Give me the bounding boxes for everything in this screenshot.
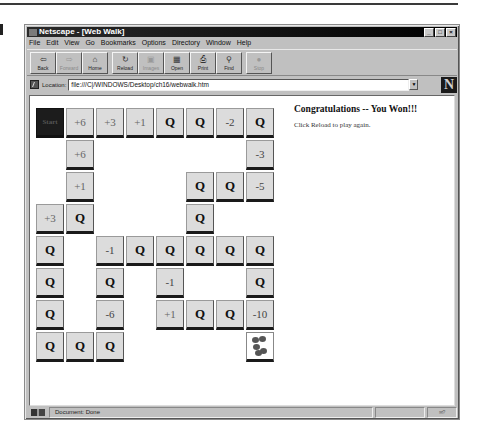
stop-label: Stop [254,65,264,71]
print-label: Print [198,65,208,71]
empty-cell [186,268,214,298]
menu-options[interactable]: Options [142,38,166,48]
number-tile[interactable]: -10 [246,300,274,330]
menu-window[interactable]: Window [206,38,231,48]
question-tile[interactable]: Q [156,236,184,266]
question-tile[interactable]: Q [96,268,124,298]
empty-cell [126,300,154,330]
maximize-button[interactable]: □ [435,28,445,37]
open-label: Open [171,65,183,71]
number-tile[interactable]: -1 [156,268,184,298]
empty-cell [186,332,214,362]
number-tile[interactable]: -5 [246,172,274,202]
bookmark-link-icon[interactable] [30,80,39,89]
paw-prints-icon [250,335,270,357]
empty-cell [186,140,214,170]
home-label: Home [88,65,101,71]
question-tile[interactable]: Q [186,108,214,138]
question-tile[interactable]: Q [36,236,64,266]
question-tile[interactable]: Q [186,300,214,330]
menu-directory[interactable]: Directory [172,38,200,48]
forward-label: Forward [60,65,78,71]
empty-cell [36,140,64,170]
empty-cell [66,236,94,266]
menu-go[interactable]: Go [85,38,94,48]
question-tile[interactable]: Q [246,268,274,298]
question-tile[interactable]: Q [156,108,184,138]
question-tile[interactable]: Q [246,236,274,266]
question-tile[interactable]: Q [186,204,214,234]
reload-icon: ↻ [120,56,130,64]
empty-cell [126,140,154,170]
empty-cell [96,172,124,202]
game-board: Start+6+3+1QQ-2Q+6-3+1QQ-5+3QQQ-1QQQQQQQ… [36,108,274,362]
question-tile[interactable]: Q [186,172,214,202]
menu-bookmarks[interactable]: Bookmarks [101,38,136,48]
location-bar: Location: file:///C|/WINDOWS/Desktop/ch1… [27,76,457,93]
number-tile[interactable]: +6 [66,140,94,170]
empty-cell [66,300,94,330]
find-button[interactable]: ⚲ Find [216,52,242,74]
number-tile[interactable]: +1 [156,300,184,330]
question-tile[interactable]: Q [96,332,124,362]
empty-cell [126,172,154,202]
empty-cell [66,268,94,298]
netscape-logo[interactable]: N [441,77,457,93]
number-tile[interactable]: +1 [126,108,154,138]
number-tile[interactable]: +1 [66,172,94,202]
status-text: Document: Done [49,407,373,418]
number-tile[interactable]: -1 [96,236,124,266]
question-tile[interactable]: Q [216,300,244,330]
menu-help[interactable]: Help [237,38,251,48]
open-button[interactable]: ▦ Open [164,52,190,74]
number-tile[interactable]: +3 [96,108,124,138]
title-bar[interactable]: Netscape - [Web Walk] _ □ × [27,27,457,37]
margin-marker [0,24,3,35]
reload-label: Reload [117,65,133,71]
number-tile[interactable]: -6 [96,300,124,330]
print-button[interactable]: ⎙ Print [190,52,216,74]
number-tile[interactable]: +6 [66,108,94,138]
images-button[interactable]: ▣ Images [138,52,164,74]
question-tile[interactable]: Q [36,332,64,362]
close-button[interactable]: × [446,28,456,37]
security-key-icon [31,409,45,416]
question-tile[interactable]: Q [66,332,94,362]
stop-button[interactable]: ● Stop [246,52,272,74]
question-tile[interactable]: Q [36,268,64,298]
minimize-button[interactable]: _ [424,28,434,37]
question-tile[interactable]: Q [216,236,244,266]
question-tile[interactable]: Q [126,236,154,266]
question-tile[interactable]: Q [246,108,274,138]
location-dropdown-button[interactable]: ▼ [409,79,418,90]
forward-arrow-icon: ⇨ [64,56,74,64]
reload-button[interactable]: ↻ Reload [112,52,138,74]
back-button[interactable]: ⇦ Back [30,52,56,74]
number-tile[interactable]: -2 [216,108,244,138]
mail-icon[interactable]: ✉? [427,407,457,418]
progress-pane [375,407,425,418]
open-icon: ▦ [172,56,182,64]
finish-tile[interactable] [246,332,274,362]
win-heading: Congratulations -- You Won!!! [294,104,444,114]
forward-button[interactable]: ⇨ Forward [56,52,82,74]
location-url-input[interactable]: file:///C|/WINDOWS/Desktop/ch16/webwalk.… [68,79,409,91]
find-icon: ⚲ [224,56,234,64]
back-arrow-icon: ⇦ [38,56,48,64]
question-tile[interactable]: Q [36,300,64,330]
images-label: Images [143,65,159,71]
question-tile[interactable]: Q [216,172,244,202]
number-tile[interactable]: -3 [246,140,274,170]
browser-window: Netscape - [Web Walk] _ □ × File Edit Vi… [24,24,460,420]
question-tile[interactable]: Q [66,204,94,234]
home-button[interactable]: ⌂ Home [82,52,108,74]
number-tile[interactable]: +3 [36,204,64,234]
question-tile[interactable]: Q [186,236,214,266]
start-tile[interactable]: Start [36,108,64,138]
menu-edit[interactable]: Edit [46,38,58,48]
location-label: Location: [42,82,66,88]
empty-cell [36,172,64,202]
menu-file[interactable]: File [29,38,40,48]
empty-cell [156,172,184,202]
menu-view[interactable]: View [64,38,79,48]
